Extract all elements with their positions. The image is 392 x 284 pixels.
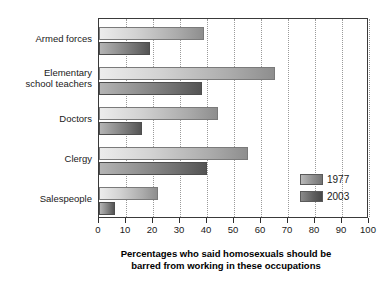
x-tick-20: [152, 218, 153, 223]
x-tick-label-40: 40: [193, 224, 219, 235]
category-axis-labels: Armed forcesElementaryschool teachersDoc…: [0, 18, 96, 218]
x-tick-0: [98, 218, 99, 223]
x-tick-label-10: 10: [112, 224, 138, 235]
legend-item-2003: 2003: [300, 189, 362, 203]
category-label: Elementaryschool teachers: [0, 67, 92, 89]
bar-group: [99, 59, 367, 99]
bar-1977: [99, 107, 218, 120]
x-tick-10: [125, 218, 126, 223]
bar-2003: [99, 202, 115, 215]
legend-item-1977: 1977: [300, 172, 362, 186]
x-tick-30: [179, 218, 180, 223]
bar-1977: [99, 27, 204, 40]
bar-group: [99, 99, 367, 139]
bar-chart: Armed forcesElementaryschool teachersDoc…: [0, 0, 392, 284]
bar-1977: [99, 67, 275, 80]
category-label-line: Salespeople: [0, 193, 92, 204]
category-label-line: school teachers: [0, 78, 92, 89]
x-tick-label-70: 70: [274, 224, 300, 235]
gridline-100: [369, 19, 371, 217]
x-tick-label-50: 50: [220, 224, 246, 235]
x-tick-label-30: 30: [166, 224, 192, 235]
category-label-line: Elementary: [0, 67, 92, 78]
bar-1977: [99, 187, 158, 200]
x-tick-label-20: 20: [139, 224, 165, 235]
category-label: Salespeople: [0, 193, 92, 204]
x-axis-title-line-2: barred from working in these occupations: [66, 260, 386, 272]
x-tick-90: [341, 218, 342, 223]
x-tick-label-100: 100: [355, 224, 381, 235]
legend-label-1977: 1977: [327, 174, 349, 185]
bar-1977: [99, 147, 248, 160]
category-label-line: Doctors: [0, 113, 92, 124]
category-label-line: Armed forces: [0, 33, 92, 44]
x-tick-40: [206, 218, 207, 223]
legend: 1977 2003: [300, 172, 362, 206]
legend-swatch-2003: [300, 191, 323, 202]
x-tick-50: [233, 218, 234, 223]
x-tick-label-0: 0: [85, 224, 111, 235]
bar-group: [99, 19, 367, 59]
x-tick-60: [260, 218, 261, 223]
category-label-line: Clergy: [0, 153, 92, 164]
x-tick-80: [314, 218, 315, 223]
category-label: Clergy: [0, 153, 92, 164]
x-tick-label-90: 90: [328, 224, 354, 235]
x-axis-title-line-1: Percentages who said homosexuals should …: [66, 248, 386, 260]
x-axis-title: Percentages who said homosexuals should …: [66, 248, 386, 272]
x-tick-label-60: 60: [247, 224, 273, 235]
bar-2003: [99, 122, 142, 135]
category-label: Armed forces: [0, 33, 92, 44]
x-tick-70: [287, 218, 288, 223]
legend-swatch-1977: [300, 174, 323, 185]
bar-2003: [99, 82, 202, 95]
x-axis-tick-labels: 0102030405060708090100: [0, 224, 392, 238]
x-tick-label-80: 80: [301, 224, 327, 235]
x-tick-100: [368, 218, 369, 223]
legend-label-2003: 2003: [327, 191, 349, 202]
bar-2003: [99, 162, 207, 175]
bar-2003: [99, 42, 150, 55]
category-label: Doctors: [0, 113, 92, 124]
